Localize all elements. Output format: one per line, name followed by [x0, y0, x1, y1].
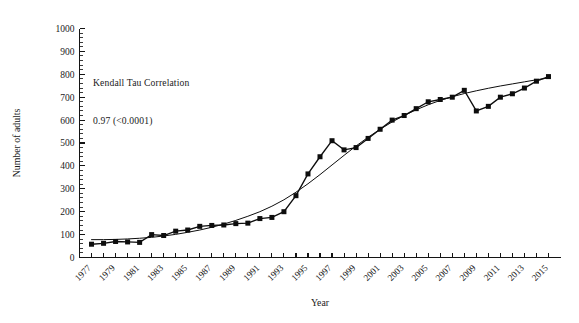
data-point-marker	[149, 232, 154, 237]
y-tick-label: 1000	[56, 24, 75, 34]
data-point-marker	[101, 241, 106, 246]
data-point-marker	[245, 221, 250, 226]
x-tick-label: 2011	[482, 263, 502, 283]
kendall-tau-annotation: Kendall Tau Correlation 0.97 (<0.0001)	[93, 52, 189, 153]
data-point-marker	[462, 88, 467, 93]
data-point-marker	[233, 221, 238, 226]
chart-canvas: 01002003004005006007008009001000 1977197…	[0, 0, 579, 323]
x-tick-label: 1987	[193, 263, 213, 283]
x-tick-label: 1989	[217, 263, 237, 283]
data-point-marker	[342, 147, 347, 152]
data-point-marker	[305, 171, 310, 176]
y-tick-label: 0	[70, 253, 75, 263]
data-point-marker	[498, 95, 503, 100]
data-point-marker	[546, 74, 551, 79]
y-tick-label: 200	[60, 207, 75, 217]
x-tick-label: 1999	[337, 263, 357, 283]
data-point-marker	[125, 239, 130, 244]
x-tick-label: 1995	[289, 263, 309, 283]
y-tick-label: 900	[60, 47, 75, 57]
x-tick-label: 1997	[313, 263, 333, 283]
y-tick-label: 400	[60, 161, 75, 171]
data-point-marker	[293, 193, 298, 198]
data-point-marker	[173, 229, 178, 234]
x-axis: 1977197919811983198519871989199119931995…	[73, 253, 561, 283]
data-point-marker	[486, 104, 491, 109]
data-point-marker	[137, 240, 142, 245]
data-point-marker	[221, 222, 226, 227]
x-tick-label: 2005	[410, 263, 430, 283]
annotation-line-2: 0.97 (<0.0001)	[93, 115, 189, 128]
data-point-marker	[390, 118, 395, 123]
data-point-marker	[209, 223, 214, 228]
data-point-marker	[257, 216, 262, 221]
x-tick-label: 1991	[241, 263, 261, 283]
x-tick-label: 2013	[506, 263, 526, 283]
data-point-marker	[534, 79, 539, 84]
data-point-marker	[402, 113, 407, 118]
data-point-marker	[161, 233, 166, 238]
y-axis: 01002003004005006007008009001000	[56, 24, 86, 263]
data-point-marker	[414, 106, 419, 111]
data-point-marker	[89, 242, 94, 247]
y-tick-label: 600	[60, 116, 75, 126]
data-point-marker	[185, 228, 190, 233]
data-point-marker	[378, 127, 383, 132]
data-point-marker	[197, 224, 202, 229]
data-point-marker	[450, 95, 455, 100]
y-axis-title: Number of adults	[11, 109, 22, 178]
x-axis-title: Year	[311, 297, 330, 308]
data-point-marker	[269, 215, 274, 220]
x-tick-label: 2007	[434, 263, 454, 283]
y-tick-label: 300	[60, 184, 75, 194]
annotation-line-1: Kendall Tau Correlation	[93, 77, 189, 90]
data-point-marker	[366, 136, 371, 141]
x-tick-label: 2001	[361, 263, 381, 283]
data-point-marker	[426, 99, 431, 104]
x-tick-label: 2003	[386, 263, 406, 283]
y-tick-label: 800	[60, 70, 75, 80]
y-tick-label: 700	[60, 93, 75, 103]
x-tick-label: 1977	[73, 263, 93, 283]
data-point-marker	[438, 97, 443, 102]
y-tick-label: 500	[60, 138, 75, 148]
x-tick-label: 2015	[530, 263, 550, 283]
data-point-marker	[281, 209, 286, 214]
data-point-marker	[510, 91, 515, 96]
chart-figure: 01002003004005006007008009001000 1977197…	[0, 0, 579, 323]
x-tick-label: 1983	[145, 263, 165, 283]
x-tick-label: 2009	[458, 263, 478, 283]
x-tick-label: 1981	[121, 263, 141, 283]
data-point-marker	[330, 138, 335, 143]
data-point-marker	[113, 239, 118, 244]
x-tick-label: 1985	[169, 263, 189, 283]
data-point-marker	[474, 108, 479, 113]
x-tick-label: 1993	[265, 263, 285, 283]
y-tick-label: 100	[60, 230, 75, 240]
data-point-marker	[522, 86, 527, 91]
x-tick-label: 1979	[97, 263, 117, 283]
data-point-marker	[318, 154, 323, 159]
data-point-marker	[354, 145, 359, 150]
